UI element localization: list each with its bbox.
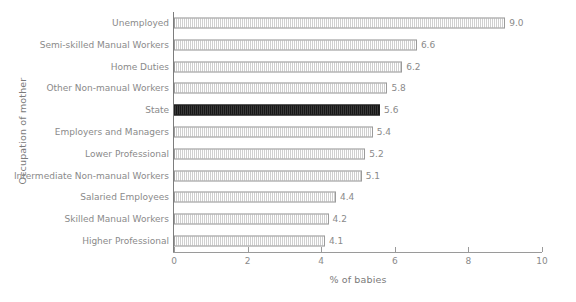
bar — [174, 214, 329, 225]
bar-row: Semi-skilled Manual Workers6.6 — [174, 34, 542, 56]
bar-highlight — [174, 105, 380, 116]
bar-value-label: 4.1 — [329, 236, 343, 246]
x-tick-label: 0 — [154, 256, 194, 266]
bar — [174, 236, 325, 247]
bar-value-label: 4.2 — [333, 214, 347, 224]
bar-row: Salaried Employees4.4 — [174, 187, 542, 209]
bar-row: Unemployed9.0 — [174, 12, 542, 34]
y-axis-title: Occupation of mother — [14, 0, 32, 262]
bar-row: State5.6 — [174, 99, 542, 121]
category-label: Skilled Manual Workers — [65, 214, 170, 224]
bar — [174, 83, 387, 94]
bar-value-label: 5.1 — [366, 171, 380, 181]
bar-row: Employers and Managers5.4 — [174, 121, 542, 143]
bar — [174, 17, 505, 28]
bar-row: Intermediate Non-manual Workers5.1 — [174, 165, 542, 187]
bar-value-label: 6.2 — [406, 62, 420, 72]
category-label: Other Non-manual Workers — [46, 83, 169, 93]
bar-value-label: 4.4 — [340, 192, 354, 202]
bar-row: Higher Professional4.1 — [174, 230, 542, 252]
x-tick — [542, 247, 543, 252]
bar-value-label: 5.6 — [384, 105, 398, 115]
category-label: State — [145, 105, 169, 115]
bar-row: Lower Professional5.2 — [174, 143, 542, 165]
x-tick — [248, 247, 249, 252]
bar — [174, 192, 336, 203]
category-label: Salaried Employees — [80, 192, 169, 202]
bar — [174, 39, 417, 50]
x-tick — [321, 247, 322, 252]
plot-area: Unemployed9.0Semi-skilled Manual Workers… — [174, 12, 542, 252]
x-tick — [395, 247, 396, 252]
bar-row: Skilled Manual Workers4.2 — [174, 208, 542, 230]
bar-row: Other Non-manual Workers5.8 — [174, 77, 542, 99]
x-tick-label: 4 — [301, 256, 341, 266]
bar-value-label: 9.0 — [509, 18, 523, 28]
category-label: Home Duties — [111, 62, 169, 72]
x-axis-title: % of babies — [174, 274, 542, 285]
category-label: Unemployed — [112, 18, 169, 28]
x-tick-label: 2 — [228, 256, 268, 266]
bar — [174, 148, 365, 159]
bar — [174, 126, 373, 137]
x-axis-line — [173, 252, 542, 253]
bar — [174, 170, 362, 181]
category-label: Lower Professional — [85, 149, 169, 159]
x-tick-label: 10 — [522, 256, 562, 266]
bar-value-label: 6.6 — [421, 40, 435, 50]
category-label: Employers and Managers — [55, 127, 169, 137]
bar-value-label: 5.2 — [369, 149, 383, 159]
category-label: Semi-skilled Manual Workers — [40, 40, 169, 50]
bar — [174, 61, 402, 72]
category-label: Higher Professional — [82, 236, 169, 246]
bar-chart: Occupation of mother Unemployed9.0Semi-s… — [0, 0, 576, 302]
x-tick-label: 8 — [448, 256, 488, 266]
bar-row: Home Duties6.2 — [174, 56, 542, 78]
bar-value-label: 5.4 — [377, 127, 391, 137]
x-tick — [468, 247, 469, 252]
x-tick-label: 6 — [375, 256, 415, 266]
category-label: Intermediate Non-manual Workers — [14, 171, 169, 181]
bar-value-label: 5.8 — [391, 83, 405, 93]
x-tick — [174, 247, 175, 252]
